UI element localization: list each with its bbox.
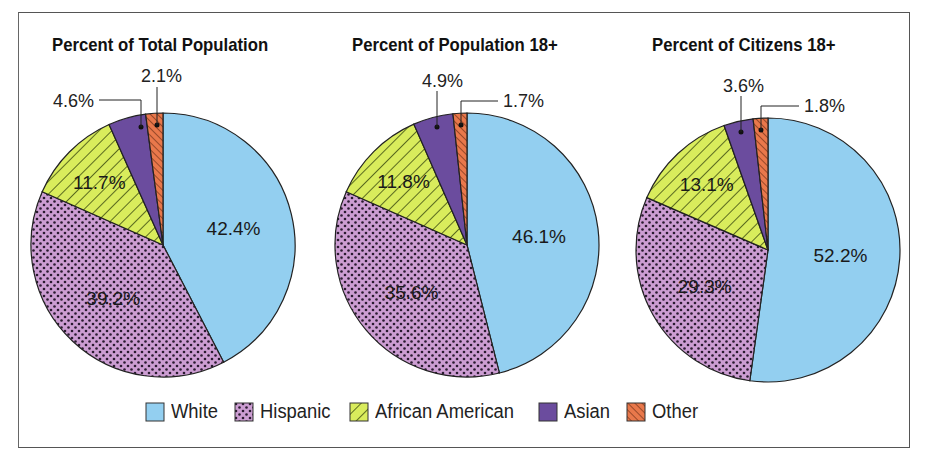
asian-swatch-icon	[538, 402, 558, 422]
other-swatch-icon	[626, 402, 646, 422]
hispanic-swatch-icon	[234, 402, 254, 422]
slice-label-white: 42.4%	[207, 218, 261, 239]
pie-population-18plus: 46.1%35.6%11.8%4.9%1.7%	[335, 71, 599, 377]
slice-label-asian: 4.9%	[422, 71, 463, 91]
legend-item-african-american: African American	[349, 400, 526, 423]
legend-item-white: White	[145, 400, 222, 423]
slice-label-asian: 3.6%	[723, 76, 764, 96]
slice-label-other: 1.8%	[804, 96, 845, 116]
slice-label-african-american: 13.1%	[680, 174, 734, 195]
legend-item-other: Other	[626, 400, 702, 423]
slice-label-african-american: 11.7%	[73, 172, 126, 193]
slice-label-white: 52.2%	[813, 245, 867, 266]
legend: White Hispanic African American Asian Ot…	[145, 400, 714, 423]
pie-citizens-18plus: 52.2%29.3%13.1%3.6%1.8%	[636, 76, 900, 382]
slice-label-african-american: 11.8%	[377, 171, 430, 192]
legend-item-hispanic: Hispanic	[234, 400, 337, 423]
white-swatch-icon	[145, 402, 165, 422]
legend-label: White	[171, 400, 218, 423]
legend-label: Asian	[564, 400, 610, 423]
pie-charts: 42.4%39.2%11.7%4.6%2.1% 46.1%35.6%11.8%4…	[0, 0, 925, 463]
legend-label: Other	[652, 400, 698, 423]
slice-label-white: 46.1%	[512, 226, 566, 247]
slice-label-other: 1.7%	[503, 91, 544, 111]
legend-item-asian: Asian	[538, 400, 614, 423]
slice-label-hispanic: 39.2%	[86, 288, 140, 309]
pie-total-population: 42.4%39.2%11.7%4.6%2.1%	[31, 66, 295, 377]
slice-label-asian: 4.6%	[53, 91, 94, 111]
slice-label-other: 2.1%	[141, 66, 182, 86]
legend-label: Hispanic	[260, 400, 331, 423]
legend-label: African American	[375, 400, 514, 423]
slice-label-hispanic: 29.3%	[678, 276, 732, 297]
slice-label-hispanic: 35.6%	[385, 282, 439, 303]
african-american-swatch-icon	[349, 402, 369, 422]
